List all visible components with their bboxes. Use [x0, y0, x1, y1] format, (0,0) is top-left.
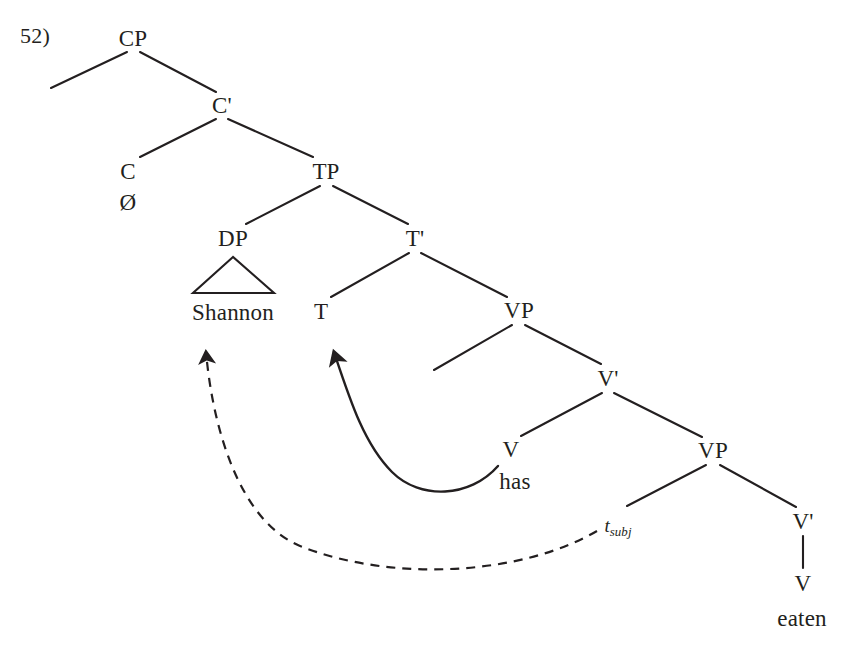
head-movement-arrow [334, 352, 498, 492]
subject-movement-arrow [206, 352, 597, 569]
branch-cbar-tp [228, 119, 313, 157]
terminal-null-complementizer: Ø [120, 191, 137, 214]
branch-tbar-vp1 [421, 253, 507, 297]
branch-cp-cbar [140, 52, 216, 92]
branch-tp-tbar [333, 186, 408, 224]
terminal-eaten: eaten [777, 607, 827, 630]
node-v-bar-upper: V' [597, 367, 618, 390]
trace-subject: tsubj [604, 515, 631, 537]
branch-vbar1-v1 [521, 393, 602, 436]
branch-cbar-c [140, 119, 216, 157]
node-c-bar: C' [212, 94, 232, 117]
example-number: 52) [20, 25, 50, 47]
branch-vp1-spec [434, 325, 512, 370]
dp-triangle [193, 257, 274, 293]
branch-vp2-vbar2 [720, 465, 796, 507]
trace-subscript: subj [610, 524, 632, 539]
branch-vp1-vbar1 [525, 325, 601, 364]
branch-tp-dp [246, 186, 320, 224]
syntax-tree-figure: 52) CP C' C Ø TP DP Shannon T' T VP V' V… [0, 0, 843, 660]
branch-vbar1-vp2 [614, 393, 702, 437]
terminal-shannon: Shannon [192, 301, 274, 324]
node-t-bar: T' [406, 227, 425, 250]
node-vp-lower: VP [698, 439, 728, 462]
branch-tbar-t [331, 253, 409, 297]
node-v-lower: V [795, 572, 812, 595]
node-dp: DP [218, 227, 248, 250]
node-tp: TP [312, 160, 339, 183]
terminal-has: has [499, 470, 530, 493]
node-vp-upper: VP [504, 299, 534, 322]
branch-vp2-trace [627, 465, 706, 506]
node-t: T [314, 300, 328, 323]
branch-cp-spec [51, 52, 127, 88]
tree-lines-svg [0, 0, 843, 660]
node-v-bar-lower: V' [792, 510, 813, 533]
node-c: C [120, 160, 136, 183]
node-v-upper: V [503, 438, 520, 461]
node-cp: CP [119, 27, 148, 50]
